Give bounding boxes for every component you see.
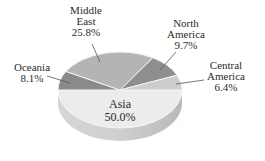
label-oceania: Oceania 8.1% bbox=[8, 62, 56, 84]
label-oceania-value: 8.1% bbox=[8, 73, 56, 84]
label-asia: Asia 50.0% bbox=[96, 98, 144, 124]
label-north-america: North America 9.7% bbox=[163, 18, 209, 51]
label-middle-east-value: 25.8% bbox=[60, 27, 112, 38]
label-central-america-value: 6.4% bbox=[201, 82, 251, 93]
label-central-america: Central America 6.4% bbox=[201, 60, 251, 93]
label-asia-value: 50.0% bbox=[96, 111, 144, 124]
label-north-america-value: 9.7% bbox=[163, 40, 209, 51]
label-middle-east: Middle East 25.8% bbox=[60, 5, 112, 38]
